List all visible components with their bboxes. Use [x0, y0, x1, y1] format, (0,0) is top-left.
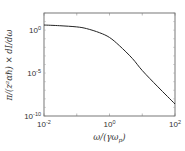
y-tick-labels: 10010-510-10 — [24, 25, 41, 121]
chart: 10-2100102 10010-510-10 ω/(γωp) π/(z²αℏ)… — [0, 0, 185, 151]
plot-frame — [44, 13, 175, 116]
x-tick-label: 10-2 — [37, 119, 51, 130]
y-tick-label: 100 — [29, 25, 41, 36]
axis-ticks — [44, 13, 175, 116]
y-tick-label: 10-5 — [27, 68, 41, 79]
data-series-line — [44, 25, 175, 104]
x-tick-label: 100 — [104, 119, 116, 130]
y-axis-label: π/(z²αℏ) × dI/dω — [4, 30, 14, 102]
x-axis-label: ω/(γωp) — [93, 132, 125, 144]
x-tick-label: 102 — [169, 119, 181, 130]
x-tick-labels: 10-2100102 — [37, 119, 181, 130]
